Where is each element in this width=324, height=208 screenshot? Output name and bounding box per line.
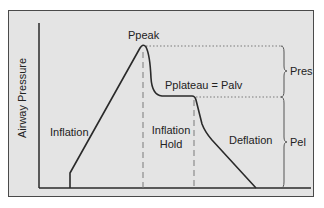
pressure-waveform-diagram [0, 0, 324, 208]
peak-label: Ppeak [128, 30, 159, 41]
inflation-hold-line2: Hold [151, 139, 191, 150]
deflation-label: Deflation [229, 135, 272, 146]
pel-brace [281, 97, 287, 188]
pres-label: Pres [290, 66, 313, 77]
plateau-label: Pplateau = Palv [165, 80, 242, 91]
inflation-label: Inflation [50, 127, 89, 138]
pressure-curve [70, 45, 256, 188]
y-axis-label: Airway Pressure [16, 58, 28, 138]
inflation-hold-label: Inflation Hold [151, 125, 191, 150]
pel-label: Pel [290, 137, 306, 148]
pres-brace [281, 46, 287, 97]
inflation-hold-line1: Inflation [151, 125, 191, 136]
